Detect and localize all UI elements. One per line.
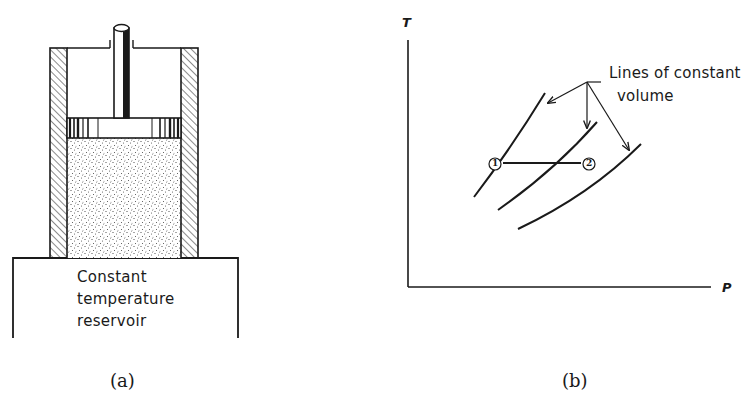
caption-b: (b)	[562, 372, 588, 390]
gas-region	[67, 138, 181, 258]
annotation-line-2: volume	[617, 89, 674, 104]
cylinder-wall-left	[50, 48, 67, 258]
t-axis-label: T	[402, 16, 411, 29]
reservoir-label-line-2: temperature	[77, 292, 175, 307]
state-label-2: 2	[586, 159, 592, 168]
reservoir-label-line-3: reservoir	[77, 314, 146, 329]
piston-rod	[114, 25, 129, 119]
figure-canvas	[0, 0, 748, 406]
constant-volume-line-3	[518, 144, 641, 229]
cylinder-wall-right	[181, 48, 198, 258]
piston	[67, 118, 181, 138]
constant-volume-line-2	[498, 122, 597, 210]
caption-a: (a)	[110, 372, 135, 390]
reservoir-label-line-1: Constant	[77, 270, 147, 285]
annotation-line-1: Lines of constant	[609, 66, 741, 81]
state-label-1: 1	[492, 159, 498, 168]
p-axis-label: P	[722, 281, 732, 294]
